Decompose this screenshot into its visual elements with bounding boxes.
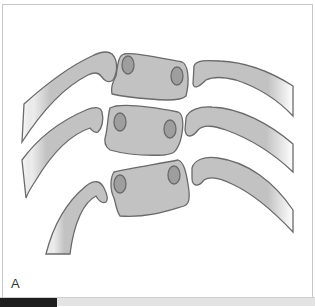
facet-right (168, 166, 180, 184)
vertebra-1 (111, 54, 188, 100)
facet-right (171, 67, 183, 85)
left-rib-3 (46, 182, 107, 254)
vertebra-2 (105, 105, 183, 155)
facet-left (122, 56, 134, 74)
bottom-bar-dark-segment (0, 298, 57, 307)
vertebra-3 (111, 160, 189, 216)
facet-right (164, 120, 176, 138)
facet-left (114, 113, 126, 131)
vertebrae (105, 54, 189, 217)
bottom-bar (0, 297, 315, 306)
panel-label: A (11, 277, 20, 290)
facet-left (114, 175, 126, 193)
vertebrae-rib-diagram (0, 0, 315, 297)
right-ribs (185, 61, 293, 232)
right-rib-3 (192, 157, 293, 232)
left-ribs (22, 52, 117, 254)
